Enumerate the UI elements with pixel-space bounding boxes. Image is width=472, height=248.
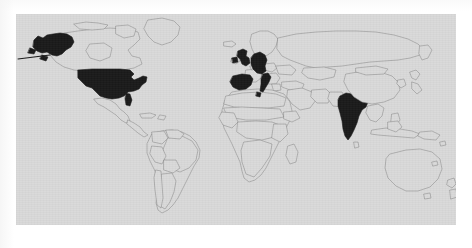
sri-lanka[interactable] <box>354 142 359 148</box>
world-map-svg[interactable] <box>16 14 456 225</box>
map-canvas[interactable] <box>16 14 456 225</box>
world-map-figure <box>0 0 472 248</box>
island-tasmania[interactable] <box>424 193 431 199</box>
country-morocco-algeria-libya-egypt[interactable] <box>224 92 286 108</box>
